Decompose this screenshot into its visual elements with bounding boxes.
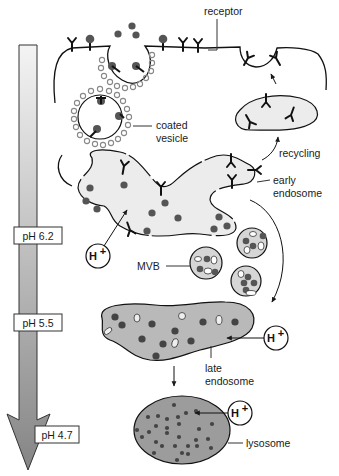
svg-text:+: + (242, 402, 248, 414)
svg-text:H: H (89, 250, 97, 262)
late-endosome-label: late endosome (205, 346, 254, 387)
svg-text:early: early (273, 174, 297, 186)
svg-text:vesicle: vesicle (156, 132, 188, 144)
recycling-label: recycling (262, 137, 321, 160)
receptor-label: receptor (204, 5, 243, 50)
early-endosome-label: early endosome (257, 174, 322, 199)
ph-label-6-2: pH 6.2 (14, 227, 62, 244)
svg-text:coated: coated (156, 119, 188, 131)
svg-text:endosome: endosome (273, 187, 322, 199)
svg-text:lysosome: lysosome (246, 437, 291, 449)
mvb-label: MVB (137, 260, 190, 272)
mvb-2 (237, 228, 267, 258)
svg-text:recycling: recycling (279, 147, 321, 159)
lysosome-label: lysosome (228, 437, 291, 449)
svg-text:receptor: receptor (204, 5, 243, 17)
svg-text:late: late (205, 362, 222, 374)
coated-vesicle-label: coated vesicle (133, 119, 188, 144)
mvb-3 (231, 266, 261, 296)
late-endosome (102, 302, 254, 360)
svg-text:H: H (267, 332, 275, 344)
coated-pit (98, 52, 154, 90)
ph-label-5-5: pH 5.5 (14, 314, 62, 331)
ph-4-7-text: pH 4.7 (42, 429, 73, 441)
ph-label-4-7: pH 4.7 (35, 426, 79, 443)
svg-text:+: + (278, 327, 284, 339)
svg-text:+: + (100, 245, 106, 257)
free-ligands (114, 22, 139, 38)
mvb-1 (190, 247, 222, 279)
ph-5-5-text: pH 5.5 (23, 317, 54, 329)
ph-gradient-arrow (7, 45, 50, 470)
svg-text:MVB: MVB (137, 260, 160, 272)
coated-vesicle (71, 86, 131, 147)
lysosome (134, 396, 230, 464)
recycling-vesicle (236, 74, 318, 130)
ph-6-2-text: pH 6.2 (23, 230, 54, 242)
proton-early: H + (86, 210, 127, 268)
early-endosome (78, 150, 261, 236)
svg-text:endosome: endosome (205, 375, 254, 387)
svg-text:H: H (231, 407, 239, 419)
endocytosis-diagram: pH 6.2 pH 5.5 pH 4.7 (0, 0, 339, 476)
